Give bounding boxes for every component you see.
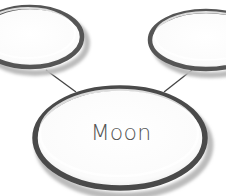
node-moon-label: Moon xyxy=(36,120,206,145)
diagram-canvas xyxy=(0,0,226,196)
node-right[interactable] xyxy=(150,11,226,75)
node-left[interactable] xyxy=(0,7,87,73)
